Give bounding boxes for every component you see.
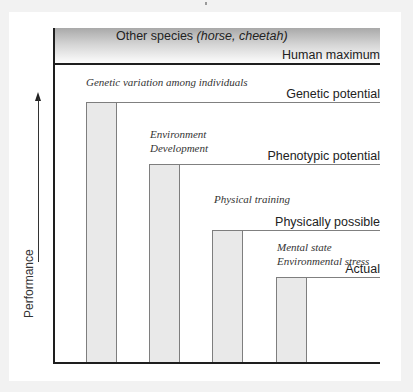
- phenotypic-potential-label: Phenotypic potential: [267, 149, 380, 163]
- annotation-genetic-variation: Genetic variation among individuals: [86, 75, 248, 89]
- genetic-potential-line: [86, 102, 380, 103]
- annotation-mental-state: Mental state: [277, 240, 332, 254]
- y-axis: [53, 28, 55, 364]
- page-marker: [205, 2, 207, 5]
- diagram-panel: [9, 12, 401, 381]
- other-species-label: Other species (horse, cheetah): [116, 29, 288, 43]
- human-maximum-label: Human maximum: [282, 48, 380, 62]
- annotation-physical-training: Physical training: [214, 192, 290, 206]
- bar-genetic-potential: [86, 102, 117, 363]
- annotation-development: Development: [150, 141, 208, 155]
- actual-label: Actual: [345, 262, 380, 276]
- performance-arrow-shaft: [38, 98, 39, 262]
- species-label-text: Other species: [116, 29, 197, 43]
- annotation-environment: Environment: [150, 127, 206, 141]
- species-examples: (horse, cheetah): [197, 29, 288, 43]
- genetic-potential-label: Genetic potential: [286, 87, 380, 101]
- physically-possible-label: Physically possible: [275, 215, 380, 229]
- bar-actual: [276, 277, 307, 363]
- phenotypic-potential-line: [149, 164, 380, 165]
- bar-phenotypic-potential: [149, 164, 180, 363]
- y-axis-label: Performance: [22, 249, 36, 318]
- bar-physically-possible: [212, 230, 243, 363]
- human-maximum-line: [54, 63, 380, 65]
- x-axis: [53, 362, 380, 364]
